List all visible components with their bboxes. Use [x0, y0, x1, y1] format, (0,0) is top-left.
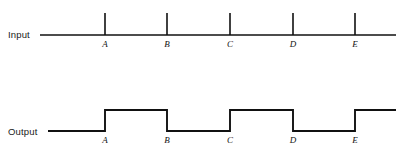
input-event-label-e: E — [352, 40, 358, 49]
input-event-label-c: C — [227, 40, 233, 49]
output-square-wave — [48, 110, 396, 131]
input-event-label-d: D — [290, 40, 297, 49]
output-event-label-a: A — [102, 136, 108, 145]
output-event-label-b: B — [164, 136, 170, 145]
output-event-label-c: C — [227, 136, 233, 145]
timing-diagram: Input Output ABCDE ABCDE — [0, 0, 401, 151]
input-waveform — [40, 13, 396, 35]
input-event-label-b: B — [164, 40, 170, 49]
output-waveform — [48, 110, 396, 131]
input-event-label-a: A — [102, 40, 108, 49]
output-event-label-d: D — [290, 136, 297, 145]
waveform-canvas — [0, 0, 401, 151]
output-event-label-e: E — [352, 136, 358, 145]
